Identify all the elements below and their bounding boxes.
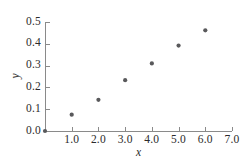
data-point	[123, 78, 127, 82]
data-point-markers	[43, 28, 207, 133]
data-point	[96, 98, 100, 102]
data-point	[70, 113, 74, 117]
scatter-chart: 0.00.10.20.30.40.5 1.02.03.04.05.06.07.0…	[0, 0, 251, 161]
x-tick-label: 3.0	[110, 133, 140, 145]
data-point	[176, 43, 180, 47]
y-tick-label: 0.4	[26, 36, 41, 48]
y-tick-label: 0.3	[26, 58, 41, 70]
data-point	[150, 61, 154, 65]
y-tick-label: 0.0	[26, 124, 41, 136]
y-axis-title: y	[9, 69, 21, 83]
y-tick-label: 0.1	[26, 102, 41, 114]
x-tick-label: 6.0	[190, 133, 220, 145]
x-tick-label: 2.0	[83, 133, 113, 145]
x-tick-label: 5.0	[164, 133, 194, 145]
x-tick-label: 7.0	[217, 133, 247, 145]
tick-marks	[46, 23, 233, 132]
y-tick-label: 0.5	[26, 15, 41, 27]
y-tick-label: 0.2	[26, 80, 41, 92]
data-point	[203, 28, 207, 32]
x-axis-title: x	[129, 146, 149, 158]
data-point	[43, 129, 47, 133]
x-tick-label: 4.0	[137, 133, 167, 145]
x-tick-label: 1.0	[57, 133, 87, 145]
